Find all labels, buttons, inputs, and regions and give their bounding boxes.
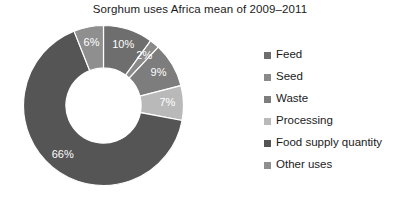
donut-chart: 10%2%9%7%66%6% [22,24,185,187]
slice-data-label: 7% [159,96,175,108]
legend-swatch-icon [264,162,271,169]
legend-item-label: Feed [276,49,302,61]
slice-data-label: 10% [112,38,134,50]
legend-swatch-icon [264,118,271,125]
legend-item-label: Seed [276,71,303,83]
slice-data-label: 2% [136,49,152,61]
legend-swatch-icon [264,74,271,81]
chart-title: Sorghum uses Africa mean of 2009–2011 [0,3,400,15]
legend-swatch-icon [264,52,271,59]
legend-item[interactable]: Feed [264,44,396,66]
legend-item[interactable]: Food supply quantity [264,132,396,154]
legend-item-label: Food supply quantity [276,137,382,149]
legend-item-label: Other uses [276,159,332,171]
legend-swatch-icon [264,96,271,103]
legend-item[interactable]: Seed [264,66,396,88]
legend-swatch-icon [264,140,271,147]
legend-item-label: Waste [276,93,308,105]
slice-data-label: 9% [151,66,167,78]
legend-item[interactable]: Waste [264,88,396,110]
donut-svg: 10%2%9%7%66%6% [22,24,185,187]
chart-figure: Sorghum uses Africa mean of 2009–2011 10… [0,0,400,200]
legend-item[interactable]: Processing [264,110,396,132]
legend-item-label: Processing [276,115,333,127]
legend-item[interactable]: Other uses [264,154,396,176]
slice-data-label: 66% [52,148,74,160]
slice-data-label: 6% [84,36,100,48]
chart-legend: FeedSeedWasteProcessingFood supply quant… [264,44,396,176]
